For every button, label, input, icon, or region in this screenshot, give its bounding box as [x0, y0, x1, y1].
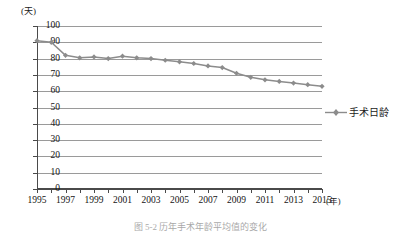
data-point-marker — [319, 84, 324, 89]
x-axis-tick-mark — [322, 189, 323, 193]
data-point-marker — [262, 77, 267, 82]
data-point-marker — [291, 80, 296, 85]
legend-label: 手术日龄 — [349, 107, 389, 118]
x-axis-tick-label: 2001 — [113, 195, 132, 205]
x-axis-tick-mark — [294, 189, 295, 193]
data-point-marker — [191, 61, 196, 66]
data-point-marker — [205, 63, 210, 68]
x-axis-tick-mark — [180, 189, 181, 193]
series-layer — [37, 26, 322, 189]
x-axis-tick-mark — [66, 189, 67, 193]
x-axis-tick-mark — [108, 189, 109, 193]
x-axis-tick-mark — [80, 189, 81, 193]
data-point-marker — [77, 55, 82, 60]
data-point-marker — [148, 56, 153, 61]
data-point-marker — [305, 82, 310, 87]
x-axis-tick-mark — [279, 189, 280, 193]
x-axis-tick-label: 1997 — [56, 195, 75, 205]
data-point-marker — [220, 65, 225, 70]
data-point-marker — [277, 79, 282, 84]
x-axis-tick-label: 2013 — [284, 195, 303, 205]
x-axis-tick-mark — [208, 189, 209, 193]
data-point-marker — [177, 59, 182, 64]
x-axis-tick-mark — [94, 189, 95, 193]
x-axis-unit-label: (年) — [326, 196, 341, 206]
data-point-marker — [134, 55, 139, 60]
x-axis-tick-mark — [308, 189, 309, 193]
x-axis-tick-mark — [222, 189, 223, 193]
x-axis-tick-label: 2005 — [170, 195, 189, 205]
legend-marker-icon — [325, 107, 347, 118]
legend: 手术日龄 — [325, 107, 389, 118]
figure-caption: 图 5-2 历年手术年龄平均值的变化 — [0, 222, 401, 233]
data-point-marker — [106, 56, 111, 61]
x-axis-tick-mark — [151, 189, 152, 193]
chart-figure: (天) 0102030405060708090100 1995199719992… — [0, 0, 401, 233]
data-point-marker — [248, 75, 253, 80]
x-axis-tick-mark — [237, 189, 238, 193]
x-axis-tick-label: 1995 — [28, 195, 47, 205]
data-point-marker — [163, 58, 168, 63]
x-axis-tick-mark — [194, 189, 195, 193]
x-axis-tick-mark — [51, 189, 52, 193]
x-axis-tick-mark — [123, 189, 124, 193]
x-axis-tick-mark — [251, 189, 252, 193]
data-point-marker — [234, 71, 239, 76]
data-point-marker — [120, 54, 125, 59]
x-axis-tick-mark — [265, 189, 266, 193]
x-axis-tick-label: 2003 — [142, 195, 161, 205]
x-axis-tick-label: 2009 — [227, 195, 246, 205]
x-axis-tick-label: 2011 — [256, 195, 275, 205]
x-axis-tick-label: 1999 — [85, 195, 104, 205]
x-axis-tick-mark — [165, 189, 166, 193]
x-axis-tick-mark — [137, 189, 138, 193]
x-axis-tick-label: 2007 — [199, 195, 218, 205]
x-axis-tick-mark — [37, 189, 38, 193]
y-axis-unit-label: (天) — [21, 6, 36, 16]
data-point-marker — [91, 54, 96, 59]
